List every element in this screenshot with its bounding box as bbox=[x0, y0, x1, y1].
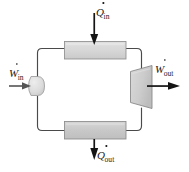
label-heat-out: Qout bbox=[97, 150, 115, 161]
pipe-condenser-to-pump bbox=[38, 96, 65, 131]
cycle-schematic-svg bbox=[0, 0, 189, 172]
boiler-block bbox=[65, 42, 127, 60]
work-out-subscript: out bbox=[164, 69, 174, 78]
label-work-in: Win bbox=[9, 68, 24, 79]
pipe-boiler-to-turbine bbox=[126, 49, 142, 72]
heat-in-subscript: in bbox=[103, 12, 109, 21]
condenser-block bbox=[65, 122, 127, 140]
rankine-cycle-diagram: Qin Qout Win Wout bbox=[0, 0, 189, 172]
work-out-dot-accent bbox=[164, 59, 166, 61]
label-heat-in: Qin bbox=[96, 7, 110, 18]
turbine-body bbox=[131, 66, 153, 109]
work-in-dot-accent bbox=[16, 63, 18, 65]
work-in-arrow bbox=[9, 82, 31, 89]
heat-in-arrow-shaft bbox=[93, 13, 95, 37]
work-out-arrow-head bbox=[168, 82, 180, 90]
boiler-highlight bbox=[66, 43, 125, 45]
pipe-loop bbox=[38, 49, 142, 131]
work-in-subscript: in bbox=[18, 73, 24, 82]
heat-out-subscript: out bbox=[104, 155, 114, 164]
pipe-turbine-to-condenser bbox=[126, 108, 142, 131]
condenser-highlight bbox=[66, 123, 125, 125]
turbine-block bbox=[131, 66, 153, 109]
heat-out-dot-accent bbox=[105, 145, 107, 147]
work-in-symbol: W bbox=[9, 68, 18, 79]
heat-in-dot-accent bbox=[102, 2, 104, 4]
work-out-symbol: W bbox=[155, 64, 164, 75]
label-work-out: Wout bbox=[155, 64, 174, 75]
